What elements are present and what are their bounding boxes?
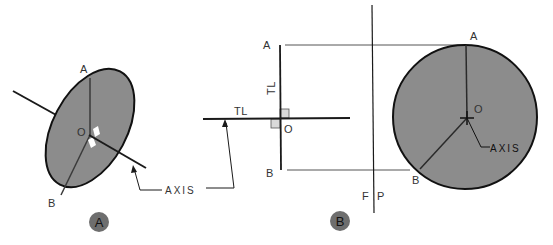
axis-leader-a [135,172,140,190]
label-o-view-a: O [77,126,86,138]
true-shape-disc [393,45,537,189]
axis-line-a-left [13,91,58,116]
edge-view-ab [280,45,281,170]
arrowhead-icon [131,165,137,173]
label-a-view-a: A [80,63,88,75]
descriptive-geometry-figure: A B O AXIS A A B O TL TL F P [0,0,553,245]
arrowhead-icon [222,119,228,127]
label-a-view-b: A [263,39,271,51]
fold-label-f: F [362,190,369,202]
label-b-view-b: B [266,167,274,179]
radius-oa-circle [466,45,467,118]
label-o-circle: O [474,103,483,115]
view-badge-a-label: A [95,215,104,230]
right-angle-square-lower [271,119,280,128]
label-tl-horizontal: TL [234,105,248,117]
label-a-circle: A [470,30,478,42]
axis-true-length [203,118,350,119]
fold-line-fp [372,5,374,213]
view-a: A B O AXIS A [13,54,234,232]
label-tl-vertical: TL [265,81,277,95]
label-b-circle: B [412,174,420,186]
axis-label-circle: AXIS [490,143,521,154]
fold-label-p: P [377,190,385,202]
label-o-view-b: O [284,123,293,135]
axis-label-a: AXIS [165,185,196,196]
view-badge-b-label: B [336,214,345,229]
view-true-shape: A B O AXIS [393,30,537,189]
axis-leader-b [206,123,234,188]
label-b-view-a: B [48,197,56,209]
